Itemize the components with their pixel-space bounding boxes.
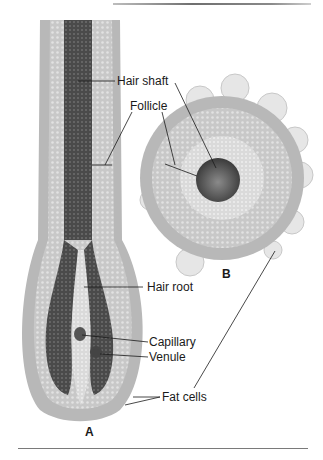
label-capillary: Capillary xyxy=(149,336,196,349)
label-venule: Venule xyxy=(149,351,186,364)
label-fat-cells: Fat cells xyxy=(162,391,207,404)
panel-label-b: B xyxy=(222,267,231,281)
panel-label-a: A xyxy=(85,425,94,439)
label-hair-shaft: Hair shaft xyxy=(117,75,168,88)
label-hair-root: Hair root xyxy=(147,281,193,294)
bottom-divider xyxy=(18,448,308,449)
label-follicle: Follicle xyxy=(130,100,167,113)
